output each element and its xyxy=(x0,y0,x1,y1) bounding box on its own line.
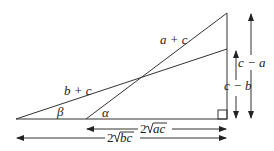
label-a-plus-c: a + c xyxy=(160,32,188,47)
label-c-minus-a: c − a xyxy=(238,55,266,70)
label-ac: ac xyxy=(153,121,166,136)
label-2-coef-bc: 2 xyxy=(107,130,114,145)
hypotenuse-b-plus-c xyxy=(16,49,227,119)
right-angle-marker xyxy=(218,110,227,119)
hypotenuse-a-plus-c xyxy=(86,13,227,119)
label-bc: bc xyxy=(120,130,133,145)
label-b-plus-c: b + c xyxy=(64,83,92,98)
label-alpha: α xyxy=(102,105,110,120)
label-beta: β xyxy=(56,104,64,119)
label-2-coef-ac: 2 xyxy=(140,121,147,136)
label-c-minus-b: c − b xyxy=(224,78,252,93)
triangle-diagram: a + c b + c β α c − a c − b 2 ac 2 bc xyxy=(0,0,274,151)
